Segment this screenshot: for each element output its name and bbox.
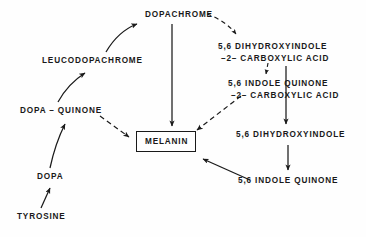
node-dopa: DOPA [37,171,63,182]
edge-dopa-quinone-to-leucodopachrome [58,73,85,102]
node-dopachrome: DOPACHROME [145,9,213,20]
node-dihydroxyindole: 5,6 DIHYDROXYINDOLE [236,129,345,140]
node-dopa-label: DOPA [37,171,63,182]
edge-tyrosine-to-dopa [41,188,50,208]
node-leucodopachrome: LEUCODOPACHROME [42,55,143,66]
diagram-canvas: TYROSINE DOPA DOPA – QUINONE LEUCODOPACH… [0,0,366,237]
node-dhica-label-line2: –2– CARBOXYLIC ACID [221,53,329,65]
node-dhi-label: 5,6 DIHYDROXYINDOLE [236,129,345,140]
edge-dhica-to-iqca [266,63,268,74]
node-melanin-label: MELANIN [145,136,188,147]
node-dopa-quinone: DOPA – QUINONE [20,105,102,116]
node-iqca-label-line1: 5,6 INDOLE QUINONE [228,78,339,90]
edge-leucodopachrome-to-dopachrome [106,24,137,52]
node-dhica-label-line1: 5,6 DIHYDROXYINDOLE [218,41,329,53]
node-tyrosine: TYROSINE [17,211,66,222]
diagram-arrows-layer [0,0,366,237]
node-indole-quinone-label: 5,6 INDOLE QUINONE [238,175,338,186]
node-dopa-quinone-label: DOPA – QUINONE [20,105,102,116]
node-tyrosine-label: TYROSINE [17,211,66,222]
node-indole-quinone: 5,6 INDOLE QUINONE [238,175,338,186]
edge-dopa-to-dopa-quinone [50,124,65,168]
node-dopachrome-label: DOPACHROME [145,9,213,20]
node-leucodopachrome-label: LEUCODOPACHROME [42,55,143,66]
node-dihydroxyindole-carboxylic-acid: 5,6 DIHYDROXYINDOLE –2– CARBOXYLIC ACID [218,41,329,64]
edge-iqca-to-melanin [197,96,241,130]
node-iqca-label-line2: –2– CARBOXYLIC ACID [231,90,339,102]
node-melanin: MELANIN [136,131,196,152]
node-indole-quinone-carboxylic-acid: 5,6 INDOLE QUINONE –2– CARBOXYLIC ACID [228,78,339,101]
edge-dopa-quinone-to-melanin [100,116,129,137]
